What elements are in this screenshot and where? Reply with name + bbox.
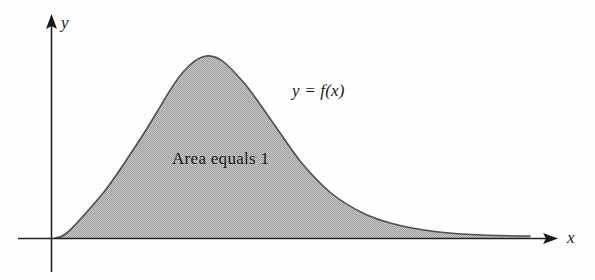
curve-equation-label: y = f(x) [292, 82, 345, 99]
area-annotation-label: Area equals 1 [172, 150, 269, 167]
x-axis-label: x [567, 229, 575, 246]
figure-canvas: y x y = f(x) Area equals 1 [0, 0, 595, 280]
y-axis-label: y [61, 14, 69, 31]
density-curve-figure [0, 0, 595, 280]
